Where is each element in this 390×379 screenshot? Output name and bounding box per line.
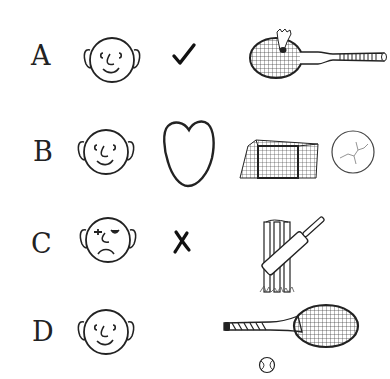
row-label-c: C [31,228,52,259]
row-label-b: B [33,136,53,167]
cross-mark-icon [172,230,192,254]
football-goal-icon [238,138,320,180]
cricket-bat-stumps-icon [250,200,340,300]
smiling-face-icon [82,36,142,86]
smiling-face-icon [76,128,136,178]
sad-face-icon [78,216,138,266]
tennis-racket-icon [222,302,360,362]
check-mark-icon [172,42,196,66]
smiling-face-icon [76,308,136,358]
row-label-a: A [31,40,51,71]
row-label-d: D [32,316,54,347]
heart-icon [162,120,216,188]
football-icon [330,128,376,176]
tennis-ball-icon [258,356,276,374]
badminton-racket-icon [248,28,388,86]
